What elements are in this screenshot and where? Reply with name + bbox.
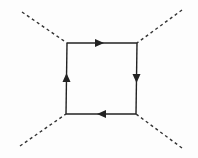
external-scalar-top-right [137,10,182,43]
feynman-box-diagram [0,0,198,158]
external-scalar-top-left [22,12,67,43]
arrow-left-icon [97,110,106,118]
arrow-right-icon [95,39,104,47]
arrow-down-icon [133,74,141,83]
external-scalar-bottom-left [20,114,66,146]
arrow-up-icon [63,73,71,82]
external-scalar-bottom-right [136,114,182,148]
